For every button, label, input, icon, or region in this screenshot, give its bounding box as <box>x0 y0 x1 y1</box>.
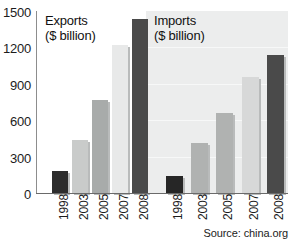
bar-face <box>92 100 108 193</box>
panel-exports: Exports ($ billion) <box>37 11 146 193</box>
panel-imports-title: Imports ($ billion) <box>154 13 205 43</box>
bar-exports-2005 <box>92 100 108 193</box>
bar-exports-2003 <box>72 140 88 193</box>
x-tick-label-imports-2008: 2008 <box>273 194 285 220</box>
y-tick-label-1500: 1500 <box>3 6 31 19</box>
x-tick-label-exports-2005: 2005 <box>98 194 110 220</box>
panel-imports-label: Imports <box>154 13 196 28</box>
source-note: Source: china.org <box>203 227 288 239</box>
x-tick-label-imports-2007: 2007 <box>248 194 260 220</box>
panel-imports: Imports ($ billion) <box>146 11 288 193</box>
y-tick-label-300: 300 <box>10 152 31 165</box>
panel-imports-units: ($ billion) <box>154 28 205 43</box>
panel-exports-label: Exports <box>45 13 88 28</box>
bar-exports-2007 <box>112 45 128 193</box>
bar-face <box>132 19 148 193</box>
y-tick-label-900: 900 <box>10 79 31 92</box>
x-tick-label-exports-2007: 2007 <box>118 194 130 220</box>
bar-imports-2003 <box>191 143 208 193</box>
x-tick-label-exports-1998: 1998 <box>58 194 70 220</box>
x-tick-label-imports-2005: 2005 <box>222 194 234 220</box>
bar-face <box>52 171 68 193</box>
bar-face <box>267 55 284 193</box>
bar-face <box>72 140 88 193</box>
bar-face <box>242 77 259 193</box>
panel-exports-units: ($ billion) <box>45 28 96 43</box>
bar-face <box>216 113 233 193</box>
bar-imports-2005 <box>216 113 233 193</box>
bar-face <box>191 143 208 193</box>
chart-figure: 1500 1200 900 600 300 0 Exports ($ billi… <box>0 0 292 241</box>
x-tick-label-imports-1998: 1998 <box>172 194 184 220</box>
panel-exports-title: Exports ($ billion) <box>45 13 96 43</box>
bar-exports-1998 <box>52 171 68 193</box>
x-tick-label-exports-2008: 2008 <box>138 194 150 220</box>
y-tick-label-600: 600 <box>10 115 31 128</box>
x-tick-label-exports-2003: 2003 <box>78 194 90 220</box>
y-tick-label-1200: 1200 <box>3 42 31 55</box>
bar-imports-1998 <box>166 176 183 193</box>
bar-face <box>112 45 128 193</box>
bar-imports-2007 <box>242 77 259 193</box>
bar-exports-2008 <box>132 19 148 193</box>
bar-face <box>166 176 183 193</box>
bar-imports-2008 <box>267 55 284 193</box>
x-tick-label-imports-2003: 2003 <box>197 194 209 220</box>
